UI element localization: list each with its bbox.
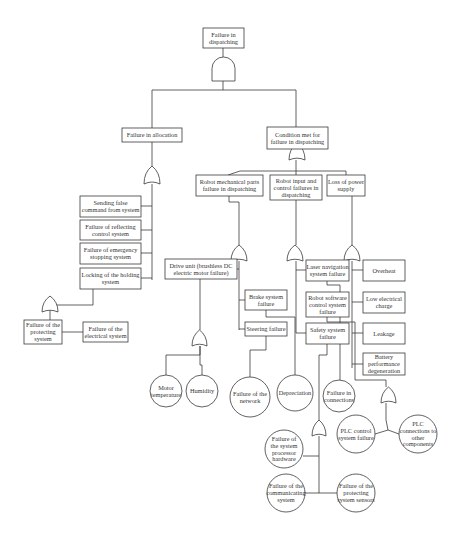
event-label: stopping system bbox=[90, 253, 131, 260]
event-label: Steering failure bbox=[247, 325, 286, 332]
event-top: Failure indispatching bbox=[203, 28, 244, 48]
event-communicating: Failure of thecommunicatingsystem bbox=[266, 474, 306, 512]
event-battery: Batteryperformancedegeneration bbox=[363, 353, 405, 375]
event-cond: Condition met forfailure in dispatching bbox=[267, 127, 328, 149]
or-gate-icon bbox=[144, 166, 160, 184]
event-label: degeneration bbox=[368, 367, 401, 374]
event-label: dispatching bbox=[281, 191, 311, 198]
event-label: connections bbox=[324, 396, 355, 403]
or-gate-icon bbox=[344, 245, 360, 261]
event-connections: Failure inconnections bbox=[323, 380, 355, 412]
connector-line bbox=[375, 403, 388, 434]
event-label: system bbox=[277, 496, 295, 503]
event-plccontrol: PLC controlsystem failure bbox=[337, 415, 375, 453]
event-laser: Laser navigationsystem failure bbox=[306, 260, 349, 281]
event-electrical: Failure of theelectrical system bbox=[83, 322, 128, 342]
event-label: electrical system bbox=[84, 332, 126, 339]
event-software: Robot softwarecontrol systemfailure bbox=[306, 292, 349, 317]
event-protect: Failure of theprotectingsystem bbox=[24, 320, 62, 344]
event-label: control system bbox=[92, 230, 129, 237]
connector-line bbox=[250, 336, 266, 377]
event-label: system failure bbox=[310, 270, 346, 277]
connector-line bbox=[166, 346, 200, 375]
connector-line bbox=[266, 310, 295, 375]
event-label: system bbox=[34, 335, 52, 342]
event-humidity: Humidity bbox=[186, 375, 218, 407]
event-label: failure bbox=[319, 333, 336, 340]
event-label: temperature bbox=[151, 391, 181, 398]
connector-line bbox=[388, 430, 399, 434]
event-depreciation: Depreciation bbox=[277, 375, 313, 411]
event-label: supply bbox=[338, 185, 356, 192]
event-label: Depreciation bbox=[279, 389, 312, 396]
event-input: Robot input andcontrol failures indispat… bbox=[270, 175, 322, 200]
event-drive: Drive unit (brushless DCelectric motor f… bbox=[165, 259, 237, 279]
event-send: Sending falsecommand from system bbox=[80, 196, 141, 217]
event-leakage: Leakage bbox=[363, 323, 405, 344]
event-mech: Robot mechanical partsfailure in dispatc… bbox=[196, 175, 263, 196]
or-gate-icon bbox=[42, 296, 58, 312]
event-label: hardware bbox=[272, 455, 296, 462]
event-label: failure bbox=[319, 308, 336, 315]
event-emerg: Failure of emergencystopping system bbox=[80, 243, 141, 264]
event-label: system sensors bbox=[337, 496, 375, 503]
event-label: charge bbox=[376, 302, 393, 309]
event-nodes: Failure indispatchingFailure in allocati… bbox=[24, 28, 437, 512]
fault-tree-diagram: Failure indispatchingFailure in allocati… bbox=[0, 0, 458, 534]
event-power: Loss of powersupply bbox=[327, 175, 365, 196]
event-protectsensors: Failure of theprotectingsystem sensors bbox=[337, 474, 375, 512]
event-label: command from system bbox=[82, 206, 140, 213]
event-motortemp: Motortemperature bbox=[150, 375, 182, 407]
event-processor: Failure ofthe systemprocessorhardware bbox=[265, 430, 303, 468]
and-gate-icon bbox=[212, 57, 235, 81]
or-gate-icon bbox=[381, 387, 396, 403]
or-gate-icon bbox=[287, 245, 303, 261]
connector-line bbox=[319, 344, 327, 420]
event-label: system bbox=[102, 278, 120, 285]
event-label: failure in dispatching bbox=[271, 138, 325, 145]
event-label: Leakage bbox=[373, 330, 395, 337]
event-label: Failure in allocation bbox=[127, 131, 179, 138]
event-steer: Steering failure bbox=[245, 322, 287, 336]
or-gate-icon bbox=[192, 330, 207, 346]
event-lock: Locking of the holdingsystem bbox=[80, 268, 141, 289]
event-label: components bbox=[403, 440, 434, 447]
event-lowcharge: Low electricalcharge bbox=[363, 292, 405, 313]
event-label: failure in dispatching bbox=[203, 185, 257, 192]
event-label: electric motor failure) bbox=[173, 269, 228, 277]
event-label: Overheat bbox=[372, 267, 395, 274]
event-plcconn: PLCconnections toothercomponents bbox=[399, 415, 437, 453]
event-label: Humidity bbox=[190, 387, 215, 394]
event-brake: Brake systemfailure bbox=[245, 290, 287, 310]
connector-line bbox=[200, 346, 202, 375]
event-safety: Safety systemfailure bbox=[306, 323, 349, 344]
connector-line bbox=[229, 196, 239, 245]
event-alloc: Failure in allocation bbox=[122, 128, 182, 142]
event-label: system failure bbox=[338, 434, 374, 441]
event-label: dispatching bbox=[209, 38, 239, 45]
event-network: Failure of thenetwork bbox=[230, 377, 270, 417]
event-reflect: Failure of reflectingcontrol system bbox=[80, 220, 141, 240]
connector-line bbox=[228, 171, 240, 175]
event-label: network bbox=[240, 397, 261, 404]
event-overheat: Overheat bbox=[363, 260, 405, 281]
event-label: failure bbox=[258, 300, 275, 307]
or-gate-icon bbox=[312, 420, 326, 436]
